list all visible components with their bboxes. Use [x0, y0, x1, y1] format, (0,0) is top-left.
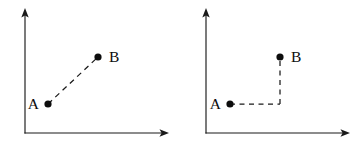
point-b-label-left: B [109, 48, 119, 65]
axes-group-right [202, 8, 350, 137]
figure-root: A B A [0, 0, 362, 148]
point-a-group-right: A [210, 95, 234, 112]
point-b-dot-right [276, 53, 283, 60]
axes-group-left [21, 8, 169, 137]
dashed-segment-a-to-b-left [48, 57, 98, 104]
point-a-label-right: A [210, 95, 222, 112]
point-a-dot-left [44, 100, 51, 107]
point-a-label-left: A [28, 95, 40, 112]
panel-right-component-path: A B [181, 0, 362, 148]
point-a-dot-right [226, 100, 233, 107]
dashed-path-group-left [48, 57, 98, 104]
panel-left-direct-path: A B [0, 0, 181, 148]
point-b-label-right: B [291, 48, 301, 65]
point-b-group-left: B [94, 48, 119, 65]
point-a-group-left: A [28, 95, 52, 112]
point-b-dot-left [94, 53, 101, 60]
dashed-path-group-right [230, 60, 280, 104]
